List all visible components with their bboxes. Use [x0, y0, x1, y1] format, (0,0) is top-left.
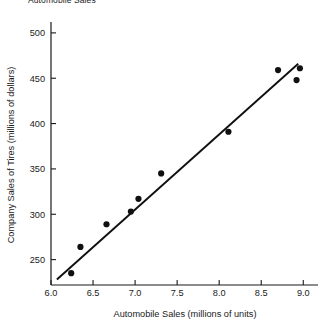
x-tick-label: 9.0 [297, 288, 310, 298]
x-axis-title: Automobile Sales (millions of units) [114, 309, 257, 319]
x-tick-label: 8.0 [213, 288, 226, 298]
data-point-marker [293, 77, 299, 83]
data-point-marker [135, 196, 141, 202]
data-point-marker [297, 65, 303, 71]
trend-line [57, 64, 298, 280]
data-point-marker [158, 170, 164, 176]
x-tick-label: 6.0 [45, 288, 58, 298]
x-axis-tick-labels: 6.06.57.07.58.08.59.0 [45, 288, 310, 298]
data-point-marker [103, 221, 109, 227]
y-tick-label: 450 [30, 74, 45, 84]
y-tick-label: 500 [30, 28, 45, 38]
data-point-marker [128, 208, 134, 214]
data-point-marker [225, 129, 231, 135]
scatter-plot-figure: Automobile Sales 250300350400450500 6.06… [0, 0, 326, 329]
y-axis-ticks [51, 33, 56, 260]
x-tick-label: 7.0 [129, 288, 142, 298]
data-point-marker [68, 270, 74, 276]
data-point-marker [275, 67, 281, 73]
y-axis-tick-labels: 250300350400450500 [30, 28, 45, 265]
data-point-marker [77, 244, 83, 250]
plot-canvas: 250300350400450500 6.06.57.07.58.08.59.0… [0, 0, 326, 329]
regression-line [57, 64, 298, 280]
x-tick-label: 7.5 [171, 288, 184, 298]
y-tick-label: 350 [30, 164, 45, 174]
y-tick-label: 300 [30, 210, 45, 220]
x-tick-label: 6.5 [87, 288, 100, 298]
y-axis-title: Company Sales of Tires (millions of doll… [6, 67, 16, 244]
y-tick-label: 400 [30, 119, 45, 129]
page-title: Automobile Sales [28, 0, 96, 3]
data-points [68, 65, 303, 276]
y-tick-label: 250 [30, 255, 45, 265]
x-tick-label: 8.5 [255, 288, 268, 298]
x-axis-ticks [51, 280, 303, 285]
